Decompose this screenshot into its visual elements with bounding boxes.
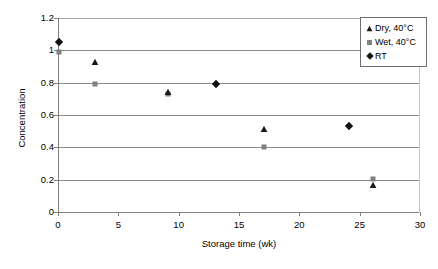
gridline-y-0.4 — [59, 147, 419, 148]
x-tick-label: 10 — [173, 219, 184, 230]
legend-triangle-icon — [364, 23, 375, 34]
x-tick-label: 15 — [234, 219, 245, 230]
x-axis-ticks: 051015202530 — [58, 212, 420, 236]
legend-item: Dry, 40°C — [364, 21, 424, 35]
data-point-triangle — [164, 88, 172, 96]
y-axis-title-wrapper: Concentration — [2, 20, 20, 210]
legend-diamond-icon — [364, 51, 375, 62]
chart-legend: Dry, 40°CWet, 40°CRT — [360, 17, 427, 67]
y-axis-title: Concentration — [16, 58, 28, 178]
data-point-diamond — [55, 38, 64, 47]
data-point-triangle — [369, 181, 377, 189]
y-tick-label: 0.4 — [41, 142, 54, 152]
data-point-triangle — [91, 58, 99, 66]
x-tick-label: 25 — [354, 219, 365, 230]
data-point-square — [56, 48, 63, 55]
y-tick-label: 0.2 — [41, 175, 54, 185]
data-point-diamond — [211, 80, 220, 89]
x-tick-mark — [420, 212, 421, 216]
legend-item-label: RT — [375, 51, 387, 62]
y-tick-label: 0.8 — [41, 78, 54, 88]
y-tick-label: 0.6 — [41, 110, 54, 120]
legend-item: RT — [364, 49, 424, 63]
gridline-y-0.2 — [59, 180, 419, 181]
x-tick-mark — [118, 212, 119, 216]
x-tick-mark — [58, 212, 59, 216]
x-tick-label: 20 — [294, 219, 305, 230]
x-tick-mark — [299, 212, 300, 216]
x-tick-label: 30 — [415, 219, 426, 230]
gridline-y-0.8 — [59, 83, 419, 84]
scatter-chart: 00.20.40.60.811.2 051015202530 Storage t… — [0, 0, 438, 269]
x-tick-label: 5 — [116, 219, 121, 230]
y-tick-label: 1.2 — [41, 13, 54, 23]
x-axis-title: Storage time (wk) — [58, 238, 420, 250]
legend-item-label: Dry, 40°C — [375, 23, 413, 34]
x-tick-label: 0 — [55, 219, 60, 230]
x-tick-mark — [179, 212, 180, 216]
gridline-y-0.6 — [59, 115, 419, 116]
x-tick-mark — [360, 212, 361, 216]
legend-item-label: Wet, 40°C — [375, 37, 416, 48]
data-point-square — [261, 143, 268, 150]
data-point-diamond — [344, 122, 353, 131]
legend-item: Wet, 40°C — [364, 35, 424, 49]
data-point-square — [92, 81, 99, 88]
legend-square-icon — [364, 37, 375, 48]
x-tick-mark — [239, 212, 240, 216]
data-point-triangle — [260, 125, 268, 133]
